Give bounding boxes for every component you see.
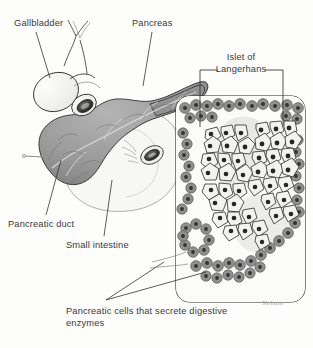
artist-signature: Nelson	[262, 299, 283, 307]
pancreas-figure: Gallbladder Pancreas Islet of Langerhans…	[0, 0, 313, 348]
label-pancreas: Pancreas	[132, 18, 172, 30]
label-islet-of-langerhans: Islet of Langerhans	[202, 52, 280, 75]
leader-pancreas	[143, 32, 152, 86]
leader-gallbladder	[36, 32, 50, 78]
leader-acinar-1	[106, 262, 164, 300]
caption-pancreatic-cells: Pancreatic cells that secrete digestive …	[66, 306, 231, 329]
label-small-intestine: Small intestine	[66, 240, 129, 252]
bile-duct-shape	[64, 20, 90, 74]
label-gallbladder: Gallbladder	[14, 18, 63, 30]
label-pancreatic-duct: Pancreatic duct	[8, 219, 74, 231]
histology-panel	[176, 96, 305, 302]
